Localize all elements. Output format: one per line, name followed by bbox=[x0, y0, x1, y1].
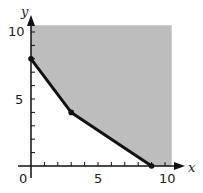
x-tick-10-label: 10 bbox=[159, 171, 176, 186]
vertex-point bbox=[149, 163, 155, 169]
origin-label: 0 bbox=[19, 171, 27, 186]
x-axis-label: x bbox=[188, 160, 196, 175]
y-axis-label: y bbox=[20, 4, 29, 19]
x-tick-5-label: 5 bbox=[94, 171, 102, 186]
y-tick-10-label: 10 bbox=[8, 24, 25, 39]
vertex-point bbox=[68, 110, 74, 116]
y-tick-5-label: 5 bbox=[15, 92, 23, 107]
vertex-point bbox=[28, 56, 34, 62]
shaded-region bbox=[31, 25, 172, 166]
feasible-region-chart: 0 5 10 5 10 x y bbox=[0, 0, 203, 193]
x-axis-arrow-icon bbox=[174, 162, 185, 170]
